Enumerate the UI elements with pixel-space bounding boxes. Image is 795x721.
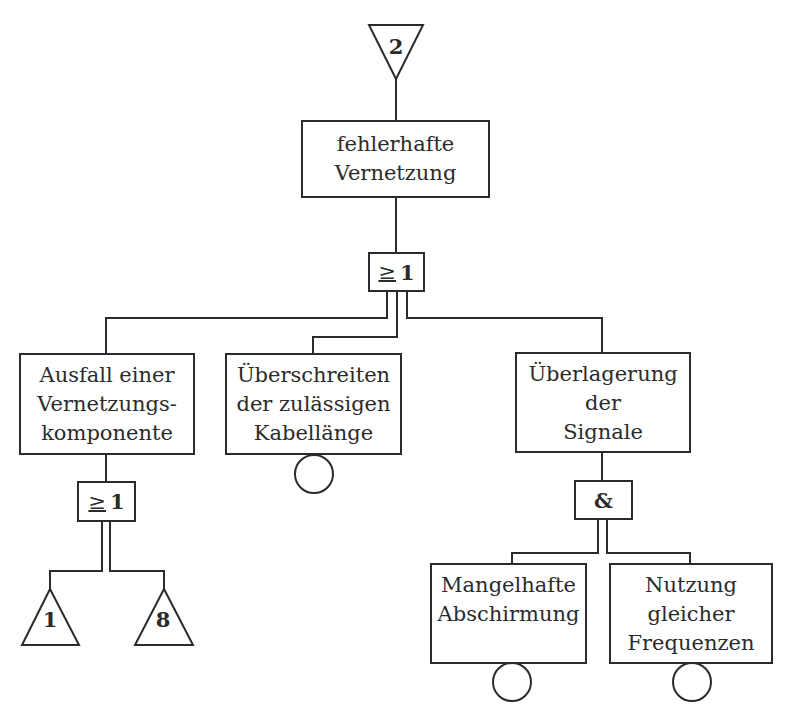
- event-box-ausfall[interactable]: Ausfall einer Vernetzungs- komponente: [19, 353, 195, 455]
- gate-symbol: &: [594, 488, 613, 513]
- or-gate-ausfall[interactable]: ≥ 1: [77, 481, 136, 522]
- event-line: gleicher: [647, 600, 734, 629]
- event-line: Kabellänge: [254, 419, 373, 448]
- or-gate-top[interactable]: ≥ 1: [368, 252, 425, 292]
- event-line: Überschreiten: [237, 361, 390, 390]
- event-line: der zulässigen: [236, 390, 390, 419]
- and-gate-ueberlagerung[interactable]: &: [574, 480, 633, 520]
- event-line: Nutzung: [645, 571, 737, 600]
- event-line: Signale: [563, 418, 643, 447]
- event-line: komponente: [41, 419, 173, 448]
- top-event-box[interactable]: fehlerhafte Vernetzung: [301, 120, 490, 198]
- basic-event-circle-icon: [493, 663, 531, 701]
- transfer-label-1: 1: [35, 607, 65, 632]
- event-line: der: [585, 389, 621, 418]
- event-line: Frequenzen: [628, 629, 755, 658]
- top-event-line-2: Vernetzung: [335, 159, 457, 188]
- gate-value: 1: [110, 489, 125, 514]
- event-box-frequenzen[interactable]: Nutzung gleicher Frequenzen: [609, 563, 773, 664]
- event-line: Abschirmung: [438, 600, 580, 629]
- gate-symbol: ≥: [88, 490, 106, 514]
- event-box-abschirmung[interactable]: Mangelhafte Abschirmung: [430, 563, 587, 664]
- gate-value: 1: [400, 260, 415, 285]
- basic-event-circle-icon: [295, 455, 333, 493]
- transfer-label-8: 8: [148, 607, 178, 632]
- event-box-kabellaenge[interactable]: Überschreiten der zulässigen Kabellänge: [225, 353, 402, 455]
- top-event-line-1: fehlerhafte: [337, 130, 455, 159]
- event-line: Mangelhafte: [441, 571, 576, 600]
- event-line: Vernetzungs-: [37, 390, 177, 419]
- basic-event-circle-icon: [673, 663, 711, 701]
- event-box-ueberlagerung[interactable]: Überlagerung der Signale: [515, 352, 691, 453]
- event-line: Ausfall einer: [39, 361, 174, 390]
- gate-symbol: ≥: [378, 260, 396, 284]
- event-line: Überlagerung: [528, 360, 677, 389]
- transfer-label-top: 2: [381, 34, 411, 59]
